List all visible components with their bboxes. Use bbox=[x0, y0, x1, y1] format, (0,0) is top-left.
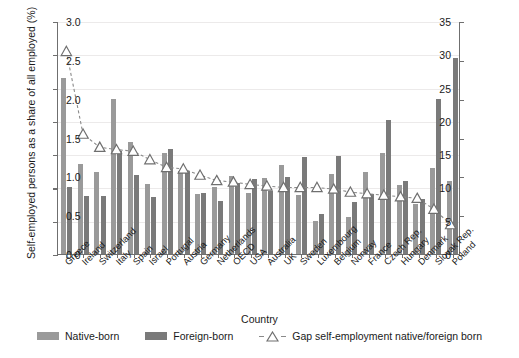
y-tick-left bbox=[53, 188, 58, 189]
y-tick-label-left: 30 bbox=[439, 49, 451, 61]
y-tick-left bbox=[53, 255, 58, 256]
x-axis-title: Country bbox=[0, 313, 519, 325]
legend-item-foreign: Foreign-born bbox=[145, 330, 233, 342]
y-tick-right bbox=[459, 139, 464, 140]
gap-marker: Belgium: 0.84 bbox=[329, 184, 339, 193]
y-tick-right bbox=[459, 22, 464, 23]
y-axis-title-left: Self-employed persons as a share of all … bbox=[25, 9, 37, 259]
gap-marker: Netherlands: 0.95 bbox=[212, 175, 222, 184]
legend-item-native: Native-born bbox=[37, 330, 119, 342]
y-tick-left bbox=[53, 155, 58, 156]
gap-line bbox=[66, 51, 450, 224]
y-tick-label-left: 15 bbox=[439, 149, 451, 161]
y-tick-label-right: 2.0 bbox=[66, 94, 81, 106]
y-tick-label-right: 3.0 bbox=[66, 16, 81, 28]
legend-label-gap: Gap self-employment native/foreign born bbox=[292, 330, 482, 342]
y-tick-label-right: 1.0 bbox=[66, 171, 81, 183]
y-tick-left bbox=[53, 22, 58, 23]
gap-series-overlay: Greece: 2.62Ireland: 1.55Switzerland: 1.… bbox=[58, 22, 459, 254]
gap-marker: Norway: 0.8 bbox=[345, 187, 355, 196]
y-tick-left bbox=[53, 122, 58, 123]
legend-label-native: Native-born bbox=[65, 330, 119, 342]
y-tick-right bbox=[459, 61, 464, 62]
y-tick-label-left: 10 bbox=[439, 182, 451, 194]
legend-label-foreign: Foreign-born bbox=[173, 330, 233, 342]
gap-marker: Denmark: 0.72 bbox=[412, 193, 422, 202]
chart-figure: Self-employed persons as a share of all … bbox=[0, 0, 519, 358]
y-tick-left bbox=[53, 222, 58, 223]
y-tick-right bbox=[459, 177, 464, 178]
gap-marker: Slovak Rep.: 0.58 bbox=[429, 204, 439, 213]
gap-marker: Germany: 1.02 bbox=[195, 170, 205, 179]
y-tick-label-right: 2.5 bbox=[66, 55, 81, 67]
y-tick-label-left: 25 bbox=[439, 83, 451, 95]
y-tick-left bbox=[53, 55, 58, 56]
legend-item-gap: Gap self-employment native/foreign born bbox=[259, 330, 482, 342]
native-swatch bbox=[37, 332, 59, 340]
gap-marker: Israel: 1.22 bbox=[145, 154, 155, 163]
y-tick-label-right: 1.5 bbox=[66, 133, 81, 145]
y-tick-left bbox=[53, 89, 58, 90]
y-tick-label-left: 5 bbox=[445, 216, 451, 228]
gap-marker-icon bbox=[259, 331, 286, 342]
y-tick-label-left: 35 bbox=[439, 16, 451, 28]
y-tick-label-left: 20 bbox=[439, 116, 451, 128]
gap-marker: Czech Rep.: 0.76 bbox=[379, 190, 389, 199]
y-tick-label-right: 0.5 bbox=[66, 210, 81, 222]
gap-marker: Spain: 1.33 bbox=[128, 146, 138, 155]
gap-marker: Austria: 1.1 bbox=[178, 164, 188, 173]
y-tick-right bbox=[459, 100, 464, 101]
gap-marker: France: 0.78 bbox=[362, 189, 372, 198]
y-tick-right bbox=[459, 216, 464, 217]
gap-marker: Italy: 1.35 bbox=[111, 144, 121, 153]
gap-marker: Switzerland: 1.38 bbox=[95, 142, 105, 151]
plot-area: Greece: 2.62Ireland: 1.55Switzerland: 1.… bbox=[57, 22, 460, 255]
chart-legend: Native-born Foreign-born Gap self-employ… bbox=[0, 330, 519, 342]
gap-marker: Hungary: 0.74 bbox=[395, 192, 405, 201]
gap-marker: Portugal: 1.12 bbox=[161, 162, 171, 171]
foreign-swatch bbox=[145, 332, 167, 340]
